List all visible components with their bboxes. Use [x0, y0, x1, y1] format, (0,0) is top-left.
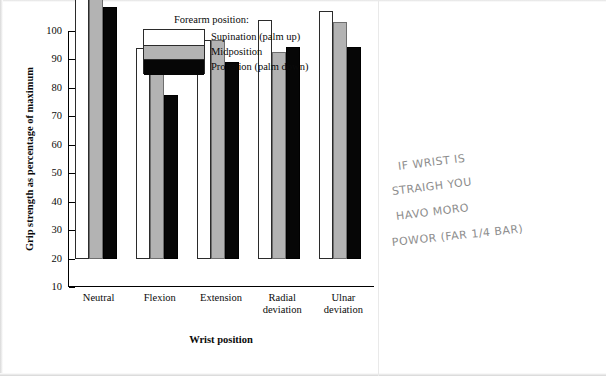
- bar-group-ulnar-deviation: [319, 31, 361, 287]
- bar-midposition-flexion: [150, 59, 164, 258]
- figure-container: Grip strength as percentage of maximum 1…: [0, 0, 606, 376]
- bar-group-neutral: [75, 31, 117, 287]
- legend-title: Forearm position:: [174, 14, 249, 25]
- y-tick-label-90: 90: [22, 54, 62, 65]
- legend-swatch-pronation: [144, 60, 204, 75]
- x-axis-line: [68, 286, 374, 287]
- y-tick-label-70: 70: [22, 111, 62, 122]
- bar-pronation-radial-deviation: [286, 47, 300, 259]
- bar-supination-neutral: [75, 0, 89, 259]
- y-tick-label-10: 10: [22, 282, 62, 293]
- y-tick-label-100: 100: [22, 26, 62, 37]
- bar-midposition-ulnar-deviation: [333, 22, 347, 258]
- bar-pronation-extension: [225, 62, 239, 258]
- handwriting-line-1: IF WRIST IS: [397, 152, 466, 173]
- legend-label-pronation: Pronation (palm down): [211, 59, 308, 74]
- y-tick-label-50: 50: [22, 168, 62, 179]
- y-tick-label-60: 60: [22, 140, 62, 151]
- legend-swatch-midposition: [144, 45, 204, 60]
- x-tick-label-ulnar-deviation: Ulnar deviation: [303, 292, 384, 316]
- x-axis-title: Wrist position: [68, 334, 374, 345]
- bar-pronation-neutral: [103, 7, 117, 259]
- y-axis-title-wrap: Grip strength as percentage of maximum: [28, 31, 29, 287]
- bar-midposition-neutral: [89, 0, 103, 259]
- legend-swatch-supination: [144, 30, 204, 45]
- scan-edge-left: [0, 0, 3, 376]
- y-tick-label-40: 40: [22, 196, 62, 207]
- bar-pronation-ulnar-deviation: [347, 47, 361, 259]
- handwriting-line-2: STRAIGH YOU: [391, 175, 472, 198]
- legend-label-midposition: Midposition: [211, 44, 262, 59]
- y-tick-label-30: 30: [22, 225, 62, 236]
- bar-supination-flexion: [136, 48, 150, 258]
- y-tick-label-80: 80: [22, 83, 62, 94]
- y-tick-label-20: 20: [22, 253, 62, 264]
- handwriting-line-4: POWOR (FAR 1/4 BAR): [391, 222, 524, 249]
- bar-pronation-flexion: [164, 95, 178, 259]
- legend-label-supination: Supination (palm up): [211, 29, 300, 44]
- bar-supination-ulnar-deviation: [319, 11, 333, 258]
- y-axis-title: Grip strength as percentage of maximum: [23, 67, 34, 251]
- handwriting-line-3: HAVO MORO: [395, 201, 470, 223]
- bar-midposition-radial-deviation: [272, 52, 286, 258]
- page-fold-line: [378, 0, 379, 376]
- legend-swatch-box: [143, 29, 205, 74]
